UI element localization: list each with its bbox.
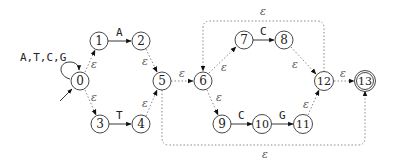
eps-6-9: ε [216, 91, 222, 104]
svg-text:10: 10 [255, 118, 269, 131]
state-11: 11 [294, 115, 313, 134]
svg-text:11: 11 [296, 118, 310, 131]
eps-12-6: ε [260, 5, 266, 18]
eps-0-3: ε [91, 91, 97, 104]
svg-text:7: 7 [240, 33, 248, 47]
label-7-8: C [260, 25, 267, 38]
start-arrow [60, 89, 72, 101]
self-loop-label: A,T,C,G [20, 51, 66, 64]
edge-11-12 [308, 90, 319, 115]
label-1-2: A [116, 26, 123, 39]
state-6: 6 [194, 72, 212, 90]
eps-11-12: ε [303, 98, 309, 111]
state-8: 8 [275, 31, 293, 49]
state-13-accept: 13 [355, 71, 376, 92]
label-3-4: T [116, 109, 123, 122]
label-9-10: C [238, 109, 245, 122]
svg-text:13: 13 [358, 75, 372, 88]
automaton-diagram: A,T,C,G ε ε ε ε ε ε ε ε ε ε ε ε A T C C … [0, 0, 394, 165]
eps-8-12: ε [292, 58, 298, 71]
svg-text:2: 2 [137, 34, 145, 48]
svg-text:0: 0 [76, 74, 84, 88]
eps-5-6: ε [179, 67, 185, 80]
state-0: 0 [71, 72, 89, 90]
state-3: 3 [91, 115, 109, 133]
svg-text:8: 8 [280, 33, 288, 47]
svg-text:12: 12 [317, 75, 331, 88]
svg-text:3: 3 [96, 117, 104, 131]
svg-text:1: 1 [95, 34, 103, 48]
eps-4-5: ε [142, 97, 148, 110]
state-4: 4 [132, 115, 150, 133]
state-1: 1 [90, 32, 108, 50]
eps-2-5: ε [142, 55, 148, 68]
state-2: 2 [132, 32, 150, 50]
state-7: 7 [235, 31, 253, 49]
eps-6-7: ε [221, 61, 227, 74]
state-9: 9 [213, 115, 231, 133]
eps-5-13: ε [262, 148, 268, 161]
eps-0-1: ε [91, 58, 97, 71]
svg-text:6: 6 [199, 74, 207, 88]
svg-text:5: 5 [158, 74, 166, 88]
svg-text:4: 4 [137, 117, 145, 131]
state-5: 5 [153, 72, 171, 90]
svg-text:9: 9 [218, 117, 226, 131]
label-10-11: G [279, 109, 286, 122]
state-12: 12 [315, 72, 334, 91]
state-10: 10 [253, 115, 272, 134]
eps-12-13: ε [340, 67, 346, 80]
